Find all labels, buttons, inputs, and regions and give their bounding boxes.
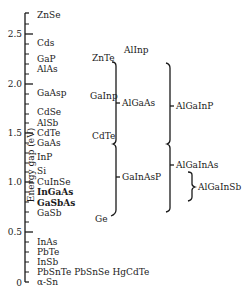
label-gap: GaP [37, 55, 56, 64]
label-znte: ZnTe [92, 54, 115, 63]
tick-2.5: 2.5 [2, 29, 22, 39]
tick-2.0: 2.0 [2, 79, 22, 89]
label-inp: InP [37, 153, 52, 162]
label-inas: InAs [37, 238, 57, 247]
tick-1.5: 1.5 [2, 128, 22, 138]
label-gaas: GaAs [37, 139, 61, 148]
gainasp-bracket [111, 148, 116, 216]
label-gasb: GaSb [37, 209, 61, 218]
y-axis-label: Energy gap (eV) [26, 128, 36, 202]
tick-1.0: 1.0 [2, 177, 22, 187]
label-cdte-mid: CdTe [92, 132, 115, 141]
label-pbsnte-row: PbSnTe PbSnSe HgCdTe [37, 268, 149, 277]
algainsb-bracket [188, 172, 195, 201]
label-algainsb: AlGaInSb [198, 183, 241, 192]
algainas-bracket [166, 148, 170, 212]
label-cdse: CdSe [37, 108, 61, 117]
label-insb: InSb [37, 258, 58, 267]
label-alas: AlAs [37, 65, 58, 74]
label-alsb: AlSb [37, 119, 58, 128]
label-algainas: AlGaInAs [176, 161, 218, 170]
label-cuinse: CuInSe [37, 178, 71, 187]
label-algainp: AlGaInP [176, 102, 213, 111]
label-cds: Cds [37, 39, 54, 48]
algainp-bracket [166, 63, 170, 148]
label-ge: Ge [95, 215, 108, 224]
label-alpha-sn: α-Sn [37, 278, 58, 287]
label-gasbas: GaSbAs [37, 199, 75, 208]
energy-gap-chart: Energy gap (eV) 2.5 2.0 1.5 1.0 0.5 0 Zn… [0, 0, 248, 295]
label-gainasp: GaInAsP [122, 173, 161, 182]
label-gaasp: GaAsp [37, 89, 66, 98]
tick-0.5: 0.5 [2, 227, 22, 237]
label-gainp: GaInp [90, 92, 118, 101]
label-cdte: CdTe [37, 129, 60, 138]
label-ingaas: InGaAs [37, 188, 73, 197]
tick-0: 0 [2, 278, 22, 288]
label-pbte: PbTe [37, 248, 59, 257]
label-si: Si [37, 167, 46, 176]
label-znse: ZnSe [37, 11, 61, 20]
label-algaas: AlGaAs [122, 99, 155, 108]
label-alinp: AlInp [124, 46, 149, 55]
